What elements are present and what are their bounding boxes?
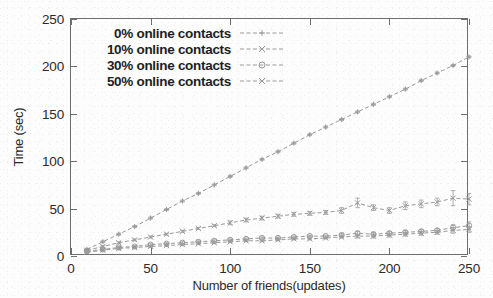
plot-area: 050100150200250050100150200250 0% online… — [70, 18, 468, 255]
y-tick — [461, 256, 467, 257]
y-tick — [461, 209, 467, 210]
y-tick — [71, 161, 77, 162]
y-tick — [71, 114, 77, 115]
x-tick — [469, 19, 470, 25]
x-tick-label: 0 — [67, 261, 74, 276]
legend-item: 50% online contacts — [79, 73, 285, 89]
y-tick — [461, 66, 467, 67]
x-tick — [71, 248, 72, 254]
legend-item: 10% online contacts — [79, 41, 285, 57]
x-tick — [389, 19, 390, 25]
y-tick-label: 150 — [42, 106, 64, 121]
legend-item: 0% online contacts — [79, 25, 285, 41]
x-tick-label: 100 — [219, 261, 241, 276]
legend-label: 30% online contacts — [79, 58, 231, 73]
plus-marker-icon — [239, 26, 285, 40]
legend-item: 30% online contacts — [79, 57, 285, 73]
y-tick — [461, 114, 467, 115]
y-tick — [461, 161, 467, 162]
x-tick-label: 200 — [378, 261, 400, 276]
x-tick — [71, 19, 72, 25]
figure-canvas: Time (sec) Number of friends(updates) 05… — [0, 0, 493, 298]
legend-label: 50% online contacts — [79, 74, 231, 89]
y-tick-label: 200 — [42, 59, 64, 74]
legend-label: 0% online contacts — [79, 26, 231, 41]
x-tick-label: 150 — [299, 261, 321, 276]
y-tick — [461, 19, 467, 20]
x-tick — [310, 248, 311, 254]
x-tick — [230, 248, 231, 254]
y-tick-label: 250 — [42, 12, 64, 27]
y-tick — [71, 66, 77, 67]
legend: 0% online contacts 10% online contacts 3… — [79, 25, 285, 89]
x-axis-title: Number of friends(updates) — [192, 278, 345, 293]
y-axis-title: Time (sec) — [11, 108, 26, 167]
y-tick-label: 50 — [49, 201, 64, 216]
x-tick — [389, 248, 390, 254]
x-tick — [469, 248, 470, 254]
cross-marker-icon — [239, 42, 285, 56]
x-tick-label: 50 — [143, 261, 158, 276]
y-tick-label: 100 — [42, 154, 64, 169]
y-tick — [71, 256, 77, 257]
x-tick — [310, 19, 311, 25]
y-axis-title-container: Time (sec) — [14, 0, 34, 298]
x-marker-icon — [239, 74, 285, 88]
x-tick-label: 250 — [458, 261, 480, 276]
x-tick — [151, 248, 152, 254]
circle-marker-icon — [239, 58, 285, 72]
y-tick — [71, 209, 77, 210]
legend-label: 10% online contacts — [79, 42, 231, 57]
y-tick-label: 0 — [57, 249, 64, 264]
